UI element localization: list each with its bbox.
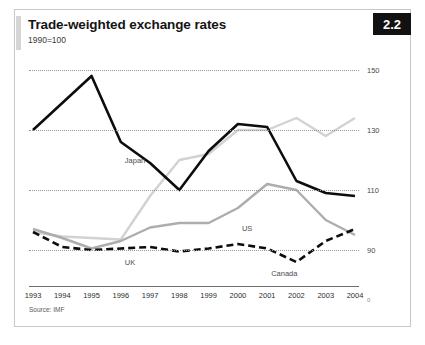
page-title: Trade-weighted exchange rates — [28, 17, 226, 32]
x-axis-tick-1994: 1994 — [54, 291, 71, 300]
series-label-canada: Canada — [271, 269, 297, 278]
x-axis-tick-2003: 2003 — [317, 291, 334, 300]
y-axis-tick-150: 150 — [367, 66, 380, 75]
gridline-150 — [29, 70, 359, 71]
x-axis-tick-2004: 2004 — [347, 291, 364, 300]
x-axis-tick-1993: 1993 — [25, 291, 42, 300]
series-line-uk — [33, 118, 355, 240]
series-label-us: US — [242, 224, 252, 233]
x-axis-tick-2002: 2002 — [288, 291, 305, 300]
series-line-japan — [33, 76, 355, 196]
gridline-130 — [29, 130, 359, 131]
series-label-uk: UK — [125, 258, 135, 267]
chart-plot-area: 150130110900JapanUKUSCanada — [29, 55, 359, 280]
gridline-90 — [29, 250, 359, 251]
x-axis-tick-1995: 1995 — [83, 291, 100, 300]
y-axis-tick-110: 110 — [367, 186, 379, 195]
series-label-japan: Japan — [125, 156, 145, 165]
x-axis-line — [29, 286, 359, 287]
gridline-110 — [29, 190, 359, 191]
y-axis-tick-90: 90 — [367, 246, 375, 255]
source-note: Source: IMF — [29, 306, 64, 313]
chart-subtitle: 1990=100 — [28, 35, 66, 45]
x-axis-tick-1997: 1997 — [142, 291, 159, 300]
series-line-us — [33, 184, 355, 249]
x-axis-tick-2000: 2000 — [230, 291, 247, 300]
x-axis-tick-1999: 1999 — [200, 291, 217, 300]
x-axis-tick-1998: 1998 — [171, 291, 188, 300]
y-axis-zero-marker: 0 — [367, 297, 370, 303]
title-accent-bar — [16, 16, 21, 50]
x-axis-tick-1996: 1996 — [112, 291, 129, 300]
figure-container: Trade-weighted exchange rates 1990=100 2… — [0, 0, 425, 345]
y-axis-tick-130: 130 — [367, 126, 380, 135]
figure-number-badge: 2.2 — [373, 13, 411, 35]
x-axis-tick-2001: 2001 — [259, 291, 276, 300]
chart-series-svg — [29, 55, 359, 280]
